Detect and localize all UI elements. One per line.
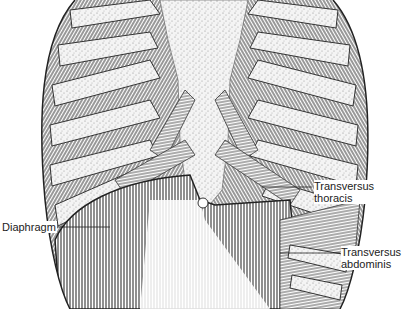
xiphoid-process (198, 198, 208, 208)
anatomy-figure: Diaphragm Transversus thoracis Transvers… (0, 0, 408, 309)
label-transversus-abdominis: Transversus abdominis (341, 246, 401, 270)
label-diaphragm: Diaphragm (2, 221, 57, 233)
label-transversus-thoracis: Transversus thoracis (314, 180, 374, 204)
